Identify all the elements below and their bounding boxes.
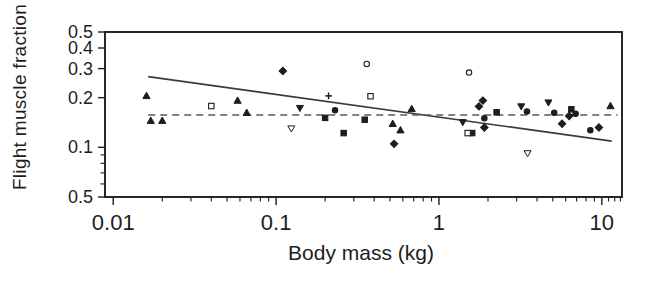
- data-point-square-filled: [569, 107, 574, 112]
- data-point-triangle-up-filled: [408, 105, 415, 111]
- data-point-triangle-up-filled: [243, 109, 250, 115]
- data-point-diamond-filled: [595, 124, 602, 131]
- data-point-circle-filled: [573, 111, 578, 116]
- data-point-triangle-up-filled: [607, 102, 614, 108]
- plot-area: 0.010.11100.50.40.30.20.10.5: [0, 0, 645, 281]
- x-axis-title: Body mass (kg): [211, 241, 511, 265]
- data-point-triangle-up-filled: [143, 92, 150, 98]
- data-point-square-filled: [322, 115, 327, 120]
- data-point-diamond-filled: [475, 103, 482, 110]
- data-point-circle-open: [466, 70, 471, 75]
- x-tick-label: 1: [433, 210, 445, 235]
- data-point-triangle-down-filled: [296, 105, 303, 111]
- data-point-triangle-down-filled: [545, 100, 552, 106]
- data-point-square-filled: [494, 110, 499, 115]
- y-tick-label: 0.1: [68, 137, 93, 157]
- x-tick-label: 0.1: [261, 210, 292, 235]
- x-tick-label: 0.01: [92, 210, 135, 235]
- data-point-triangle-up-filled: [147, 117, 154, 123]
- data-point-triangle-up-filled: [159, 117, 166, 123]
- data-point-triangle-up-filled: [234, 97, 241, 103]
- data-point-diamond-filled: [481, 124, 488, 131]
- data-point-square-open: [209, 103, 214, 108]
- data-point-circle-filled: [588, 128, 593, 133]
- data-point-triangle-down-filled: [459, 120, 466, 126]
- regression-line: [148, 77, 611, 141]
- data-point-triangle-up-filled: [397, 127, 404, 133]
- y-tick-label: 0.4: [68, 38, 93, 58]
- data-point-circle-filled: [524, 109, 529, 114]
- data-point-circle-filled: [332, 107, 337, 112]
- data-point-circle-open: [364, 61, 369, 66]
- data-point-circle-filled: [552, 110, 557, 115]
- data-point-diamond-filled: [565, 112, 572, 119]
- data-point-diamond-filled: [558, 120, 565, 127]
- x-tick-label: 10: [590, 210, 614, 235]
- data-point-square-open: [368, 94, 373, 99]
- y-tick-label: 0.5: [68, 187, 93, 207]
- y-tick-label: 0.2: [68, 88, 93, 108]
- y-axis-title: Flight muscle fraction: [9, 2, 33, 192]
- figure: 0.010.11100.50.40.30.20.10.5 Flight musc…: [0, 0, 645, 281]
- y-tick-label: 0.3: [68, 59, 93, 79]
- data-point-triangle-up-filled: [389, 120, 396, 126]
- data-point-triangle-down-open: [524, 151, 531, 157]
- data-point-circle-filled: [482, 116, 487, 121]
- data-point-diamond-filled: [390, 140, 397, 147]
- data-point-diamond-filled: [479, 97, 486, 104]
- data-point-square-filled: [362, 117, 367, 122]
- data-point-diamond-filled: [279, 67, 286, 74]
- data-point-triangle-down-open: [288, 126, 295, 132]
- data-point-triangle-down-filled: [518, 104, 525, 110]
- data-point-square-open: [465, 130, 470, 135]
- data-point-square-filled: [341, 130, 346, 135]
